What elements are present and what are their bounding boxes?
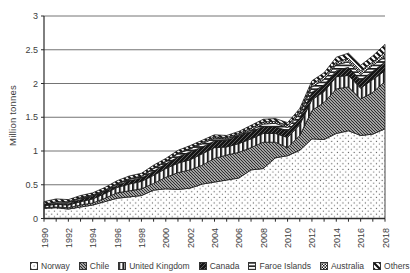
legend-item-faroe-islands: Faroe Islands bbox=[248, 261, 311, 271]
chart-legend: NorwayChileUnited KingdomCanadaFaroe Isl… bbox=[30, 259, 395, 273]
x-tick-label: 2012 bbox=[307, 228, 317, 248]
x-tick-label: 2018 bbox=[381, 228, 391, 248]
legend-label: Australia bbox=[331, 261, 364, 271]
x-tick-label: 2016 bbox=[356, 228, 366, 248]
legend-label: Norway bbox=[41, 261, 70, 271]
y-tick-label: 2 bbox=[33, 79, 38, 89]
legend-label: Chile bbox=[90, 261, 109, 271]
x-tick-label: 2014 bbox=[332, 228, 342, 248]
legend-item-australia: Australia bbox=[320, 261, 364, 271]
legend-item-others: Others bbox=[373, 261, 410, 271]
y-tick-label: 2.5 bbox=[25, 45, 38, 55]
x-tick-label: 1992 bbox=[64, 228, 74, 248]
legend-item-chile: Chile bbox=[79, 261, 109, 271]
y-tick-label: 1 bbox=[33, 146, 38, 156]
legend-item-canada: Canada bbox=[199, 261, 240, 271]
x-tick-label: 2000 bbox=[161, 228, 171, 248]
x-tick-label: 1996 bbox=[113, 228, 123, 248]
x-tick-label: 2008 bbox=[259, 228, 269, 248]
legend-key-diagonal-dense-icon bbox=[79, 262, 87, 270]
x-tick-label: 2006 bbox=[234, 228, 244, 248]
legend-key-solid-dark-icon bbox=[199, 262, 207, 270]
y-tick-label: 0 bbox=[33, 214, 38, 224]
legend-item-united-kingdom: United Kingdom bbox=[118, 261, 189, 271]
x-tick-label: 2002 bbox=[186, 228, 196, 248]
legend-label: Others bbox=[384, 261, 410, 271]
x-tick-label: 1994 bbox=[88, 228, 98, 248]
legend-key-vertical-stripes-icon bbox=[118, 262, 126, 270]
x-tick-label: 2004 bbox=[210, 228, 220, 248]
legend-label: Faroe Islands bbox=[259, 261, 311, 271]
stacked-areas bbox=[44, 44, 385, 218]
x-tick-label: 2010 bbox=[283, 228, 293, 248]
y-tick-label: 3 bbox=[33, 11, 38, 21]
x-tick-label: 1998 bbox=[137, 228, 147, 248]
legend-label: Canada bbox=[210, 261, 240, 271]
y-tick-label: 0.5 bbox=[25, 180, 38, 190]
y-tick-label: 1.5 bbox=[25, 112, 38, 122]
legend-label: United Kingdom bbox=[129, 261, 189, 271]
legend-key-horizontal-stripes-icon bbox=[248, 262, 256, 270]
legend-key-dots-icon bbox=[30, 262, 38, 270]
legend-key-diagonal-wide-icon bbox=[373, 262, 381, 270]
legend-key-checker-icon bbox=[320, 262, 328, 270]
legend-item-norway: Norway bbox=[30, 261, 70, 271]
x-tick-label: 1990 bbox=[40, 228, 50, 248]
